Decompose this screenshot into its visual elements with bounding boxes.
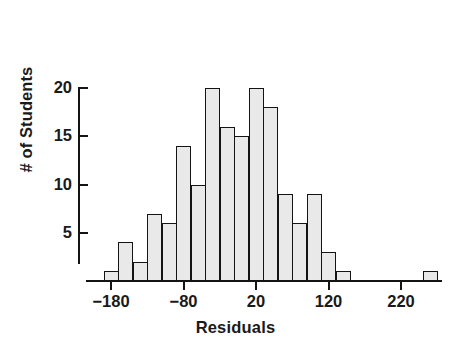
histogram-bar — [307, 194, 322, 281]
x-axis-tick — [110, 282, 112, 290]
y-axis-tick — [78, 135, 88, 137]
x-axis-title: Residuals — [0, 318, 471, 337]
histogram-bar — [147, 214, 162, 281]
x-axis-tick-label: 20 — [221, 292, 291, 311]
y-axis-line — [78, 87, 80, 264]
y-axis-tick-label: 15 — [28, 126, 72, 145]
histogram-bar — [162, 223, 177, 281]
x-axis-tick — [255, 282, 257, 290]
y-axis-title: # of Students — [17, 50, 36, 190]
histogram-bar — [118, 242, 133, 281]
histogram-chart: # of Students Residuals 5101520−180−8020… — [0, 0, 471, 359]
histogram-bar — [234, 136, 249, 281]
x-axis-tick-label: 220 — [366, 292, 436, 311]
y-axis-tick — [78, 232, 88, 234]
histogram-bar — [176, 146, 191, 281]
histogram-bar — [278, 194, 293, 281]
x-axis-tick-label: −80 — [149, 292, 219, 311]
y-axis-tick — [78, 184, 88, 186]
x-axis-tick — [183, 282, 185, 290]
histogram-bar — [263, 107, 278, 281]
x-axis-tick-label: −180 — [76, 292, 146, 311]
x-axis-tick — [328, 282, 330, 290]
histogram-bar — [220, 127, 235, 281]
histogram-bar — [321, 252, 336, 281]
histogram-bar — [249, 88, 264, 281]
histogram-bar — [292, 223, 307, 281]
histogram-bar — [191, 185, 206, 281]
y-axis-tick — [78, 87, 88, 89]
x-axis-tick-label: 120 — [294, 292, 364, 311]
histogram-bar — [205, 88, 220, 281]
y-axis-tick-label: 20 — [28, 78, 72, 97]
x-axis-line — [86, 280, 442, 282]
histogram-bar — [133, 262, 148, 281]
y-axis-tick-label: 5 — [28, 223, 72, 242]
y-axis-tick-label: 10 — [28, 175, 72, 194]
x-axis-tick — [400, 282, 402, 290]
